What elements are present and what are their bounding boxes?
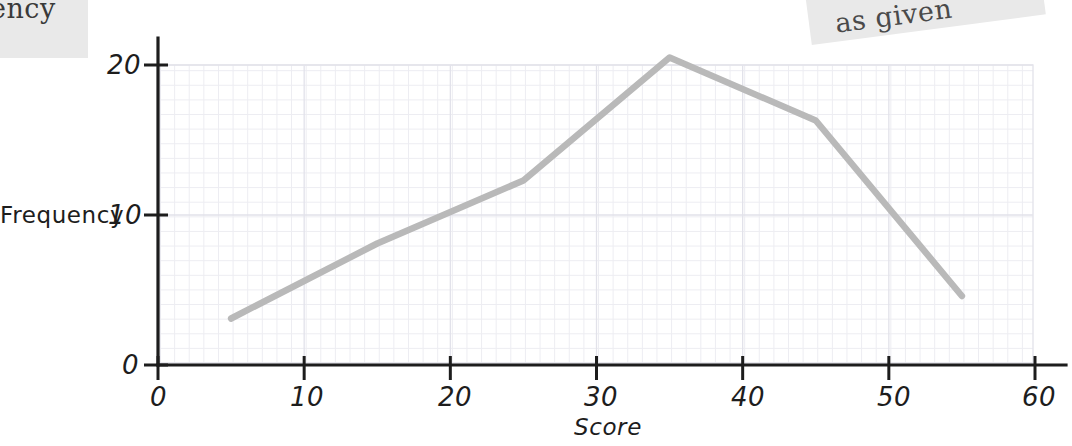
line-chart: 20 10 0 Frequency 0 10 20 30 40 50 60 Sc… xyxy=(0,0,1072,446)
y-axis-title: Frequency xyxy=(0,202,124,228)
x-tick-label-20: 20 xyxy=(438,382,472,412)
y-tick-label-20: 20 xyxy=(107,50,141,80)
x-tick-label-50: 50 xyxy=(877,382,911,412)
screenshot-canvas: ency . as given 20 10 0 Frequency 0 10 2… xyxy=(0,0,1072,446)
chart-gridlines xyxy=(160,65,1033,363)
x-tick-label-60: 60 xyxy=(1022,382,1056,412)
x-tick-label-10: 10 xyxy=(290,382,324,412)
x-tick-label-30: 30 xyxy=(584,382,618,412)
x-axis-title: Score xyxy=(574,414,642,440)
y-tick-label-0: 0 xyxy=(122,350,139,380)
x-tick-label-0: 0 xyxy=(150,382,167,412)
chart-svg xyxy=(0,0,1072,446)
chart-axes xyxy=(144,38,1066,380)
x-tick-label-40: 40 xyxy=(731,382,765,412)
